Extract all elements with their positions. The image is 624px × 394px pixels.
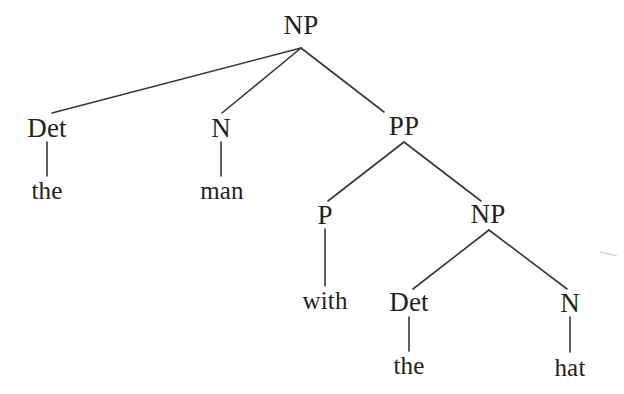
leaf-hat: hat (554, 355, 585, 380)
edge-pp-to-np2 (404, 142, 481, 201)
artifact-group (600, 252, 617, 256)
node-p: P (317, 202, 332, 229)
edge-root-np-to-pp (301, 48, 384, 112)
leaf-the-1: the (31, 178, 62, 203)
leaf-the-2: the (393, 353, 424, 378)
edge-np2-to-n2 (489, 230, 567, 289)
leaf-with: with (302, 288, 347, 313)
scan-artifact-mark (600, 252, 617, 256)
edge-np2-to-det2 (413, 230, 489, 289)
syntax-tree-figure: NP Det the N man PP P with NP Det the N … (0, 0, 624, 394)
leaf-man: man (200, 178, 244, 203)
node-det-1: Det (27, 115, 67, 142)
node-n-2: N (560, 290, 580, 317)
edge-root-np-to-det (52, 48, 301, 113)
node-np-2: NP (471, 201, 506, 228)
node-pp: PP (389, 113, 419, 140)
tree-edges-layer (0, 0, 624, 394)
node-det-2: Det (389, 289, 429, 316)
edge-pp-to-p (328, 142, 404, 201)
node-n-1: N (211, 115, 231, 142)
node-root-np: NP (284, 12, 319, 39)
